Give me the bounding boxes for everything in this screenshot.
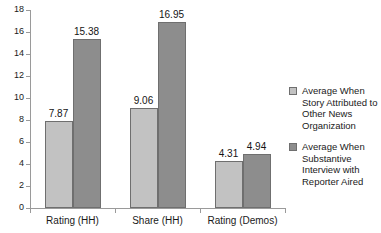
y-tick-label: 8 [0, 115, 24, 124]
x-axis-tick [285, 209, 286, 213]
y-tick-label-text: 14 [2, 49, 24, 58]
x-axis-category-label: Rating (HH) [30, 215, 115, 227]
bar [243, 154, 271, 208]
legend-swatch-icon [289, 87, 297, 95]
y-tick-label: 6 [0, 137, 24, 146]
y-tick-label-text: 6 [2, 137, 24, 146]
chart-legend: Average When Story Attributed to Other N… [289, 85, 381, 197]
y-tick-label: 4 [0, 159, 24, 168]
bar-value-label: 16.95 [152, 9, 192, 20]
bar [73, 39, 101, 208]
legend-label: Average When Story Attributed to Other N… [302, 85, 381, 131]
bar [215, 161, 243, 208]
bar-value-label: 4.94 [237, 141, 277, 152]
x-axis-category-label: Share (HH) [115, 215, 200, 227]
plot-area: 7.8715.389.0616.954.314.94 [30, 10, 285, 208]
x-axis-tick [200, 209, 201, 213]
x-axis-tick [30, 209, 31, 213]
y-tick-label-text: 2 [2, 181, 24, 190]
x-axis-category-label: Rating (Demos) [200, 215, 285, 227]
x-axis-line [30, 208, 286, 209]
bar [158, 22, 186, 208]
y-tick-label: 14 [0, 49, 24, 58]
y-tick-label-text: 16 [2, 27, 24, 36]
y-tick-label: 10 [0, 93, 24, 102]
y-tick-label: 16 [0, 27, 24, 36]
y-tick-label-text: 0 [2, 203, 24, 212]
legend-label: Average When Substantive Interview with … [302, 141, 381, 187]
legend-item-0: Average When Story Attributed to Other N… [289, 85, 381, 131]
y-tick-label-text: 18 [2, 5, 24, 14]
y-tick-label-text: 10 [2, 93, 24, 102]
bar [45, 121, 73, 208]
y-tick-label: 2 [0, 181, 24, 190]
x-axis-tick [115, 209, 116, 213]
y-tick-label: 0 [0, 203, 24, 212]
bar [130, 108, 158, 208]
y-tick-label-text: 8 [2, 115, 24, 124]
bar-value-label: 15.38 [67, 26, 107, 37]
legend-swatch-icon [289, 143, 297, 151]
y-tick-label: 12 [0, 71, 24, 80]
bar-chart: 181614121086420 Rating (HH)Share (HH)Rat… [0, 0, 381, 233]
y-tick-label: 18 [0, 5, 24, 14]
y-tick-label-text: 12 [2, 71, 24, 80]
y-tick-label-text: 4 [2, 159, 24, 168]
legend-item-1: Average When Substantive Interview with … [289, 141, 381, 187]
